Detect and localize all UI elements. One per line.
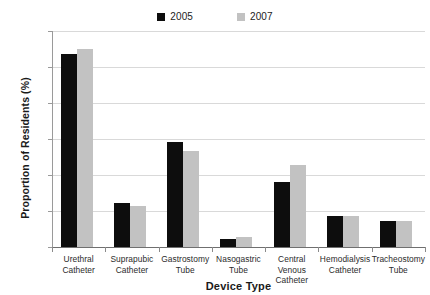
bar-2005[interactable] bbox=[274, 182, 290, 247]
x-tick-label: SuprapubicCatheter bbox=[105, 254, 158, 275]
bar-group bbox=[52, 31, 105, 247]
bar-series-container bbox=[52, 31, 425, 247]
x-tick-label-line: Gastrostomy bbox=[159, 254, 212, 265]
bar-group bbox=[318, 31, 371, 247]
x-tick-label-line: Tube bbox=[212, 265, 265, 276]
x-tick-label-line: Catheter bbox=[52, 265, 105, 276]
legend-swatch-icon-2005 bbox=[157, 13, 165, 21]
bar-2005[interactable] bbox=[61, 54, 77, 247]
x-tick-mark bbox=[52, 247, 53, 252]
x-tick-mark bbox=[105, 247, 106, 252]
bar-2007[interactable] bbox=[77, 49, 93, 247]
x-tick-label: GastrostomyTube bbox=[159, 254, 212, 275]
bar-2007[interactable] bbox=[236, 237, 252, 247]
x-tick-label: HemodialysisCatheter bbox=[318, 254, 371, 275]
x-axis-title: Device Type bbox=[52, 280, 425, 292]
x-tick-label: NasogastricTube bbox=[212, 254, 265, 275]
x-tick-label-line: Central Venous bbox=[265, 254, 318, 275]
x-tick-mark bbox=[318, 247, 319, 252]
legend-swatch-icon-2007 bbox=[237, 13, 245, 21]
x-axis-line bbox=[52, 247, 425, 248]
bar-group bbox=[265, 31, 318, 247]
bar-chart-figure: 20052007 Proportion of Residents (%) Dev… bbox=[0, 0, 430, 295]
x-tick-label: Central VenousCatheter bbox=[265, 254, 318, 286]
x-tick-mark bbox=[425, 247, 426, 252]
x-tick-mark bbox=[159, 247, 160, 252]
bar-2007[interactable] bbox=[343, 216, 359, 247]
bar-2007[interactable] bbox=[130, 206, 146, 247]
x-tick-label-line: Tube bbox=[372, 265, 425, 276]
legend-label: 2007 bbox=[250, 12, 273, 22]
x-tick-mark bbox=[372, 247, 373, 252]
x-tick-label: UrethralCatheter bbox=[52, 254, 105, 275]
x-tick-label-line: Suprapubic bbox=[105, 254, 158, 265]
x-tick-label-line: Hemodialysis bbox=[318, 254, 371, 265]
y-axis-title: Proportion of Residents (%) bbox=[19, 68, 31, 228]
x-tick-label-line: Nasogastric bbox=[212, 254, 265, 265]
legend-entry-2005[interactable]: 2005 bbox=[157, 12, 193, 22]
bar-group bbox=[159, 31, 212, 247]
bar-2005[interactable] bbox=[167, 142, 183, 247]
x-tick-label-line: Urethral bbox=[52, 254, 105, 265]
x-tick-label-line: Tube bbox=[159, 265, 212, 276]
bar-group bbox=[372, 31, 425, 247]
x-tick-mark bbox=[212, 247, 213, 252]
bar-2005[interactable] bbox=[327, 216, 343, 248]
x-tick-label-line: Tracheostomy bbox=[372, 254, 425, 265]
bar-group bbox=[105, 31, 158, 247]
bar-2007[interactable] bbox=[183, 151, 199, 247]
x-tick-label-line: Catheter bbox=[265, 275, 318, 286]
x-tick-label-line: Catheter bbox=[105, 265, 158, 276]
x-tick-label-line: Catheter bbox=[318, 265, 371, 276]
legend-entry-2007[interactable]: 2007 bbox=[237, 12, 273, 22]
x-tick-label: TracheostomyTube bbox=[372, 254, 425, 275]
bar-2007[interactable] bbox=[290, 165, 306, 247]
chart-legend: 20052007 bbox=[0, 8, 430, 26]
bar-group bbox=[212, 31, 265, 247]
bar-2007[interactable] bbox=[396, 221, 412, 247]
bar-2005[interactable] bbox=[380, 221, 396, 247]
bar-2005[interactable] bbox=[220, 239, 236, 247]
legend-label: 2005 bbox=[170, 12, 193, 22]
bar-2005[interactable] bbox=[114, 203, 130, 247]
x-tick-mark bbox=[265, 247, 266, 252]
